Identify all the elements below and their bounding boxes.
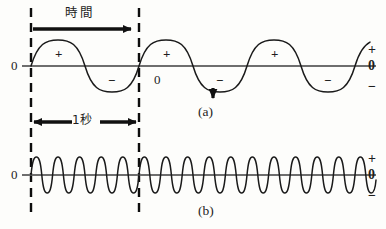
waveform-comparison-figure: 時間 1秒 0 0 + + + − − − + 0 − (a) 0 + 0 − … — [0, 0, 386, 229]
wave-b-legend-zero: 0 — [368, 168, 375, 182]
caption-a: (a) — [198, 105, 213, 119]
caption-b: (b) — [198, 204, 214, 218]
wave-a-plus-mark-3: + — [271, 47, 278, 60]
wave-b-group — [22, 157, 376, 193]
wave-a-plus-mark-1: + — [55, 47, 62, 60]
wave-b-legend-minus: − — [368, 189, 376, 203]
wave-a-zero-label-left: 0 — [11, 59, 18, 72]
wave-a-legend-minus: − — [368, 80, 376, 94]
one-second-interval-label: 1秒 — [72, 114, 92, 126]
wave-a-minus-mark-3: − — [324, 74, 331, 87]
wave-a-plus-mark-2: + — [163, 47, 170, 60]
wave-b-zero-label-left: 0 — [11, 168, 18, 181]
wave-a-minus-mark-1: − — [108, 74, 115, 87]
figure-canvas — [0, 0, 386, 229]
wave-a-zero-label-mid: 0 — [154, 73, 161, 86]
interval-boundary-lines — [31, 8, 139, 215]
wave-a-legend-zero: 0 — [368, 59, 375, 73]
wave-a-group — [22, 40, 376, 92]
wave-a-minus-mark-2: − — [216, 74, 223, 87]
wave-a-legend-plus: + — [368, 43, 376, 57]
wave-b-legend-plus: + — [368, 152, 376, 166]
time-axis-label: 時間 — [65, 7, 94, 20]
